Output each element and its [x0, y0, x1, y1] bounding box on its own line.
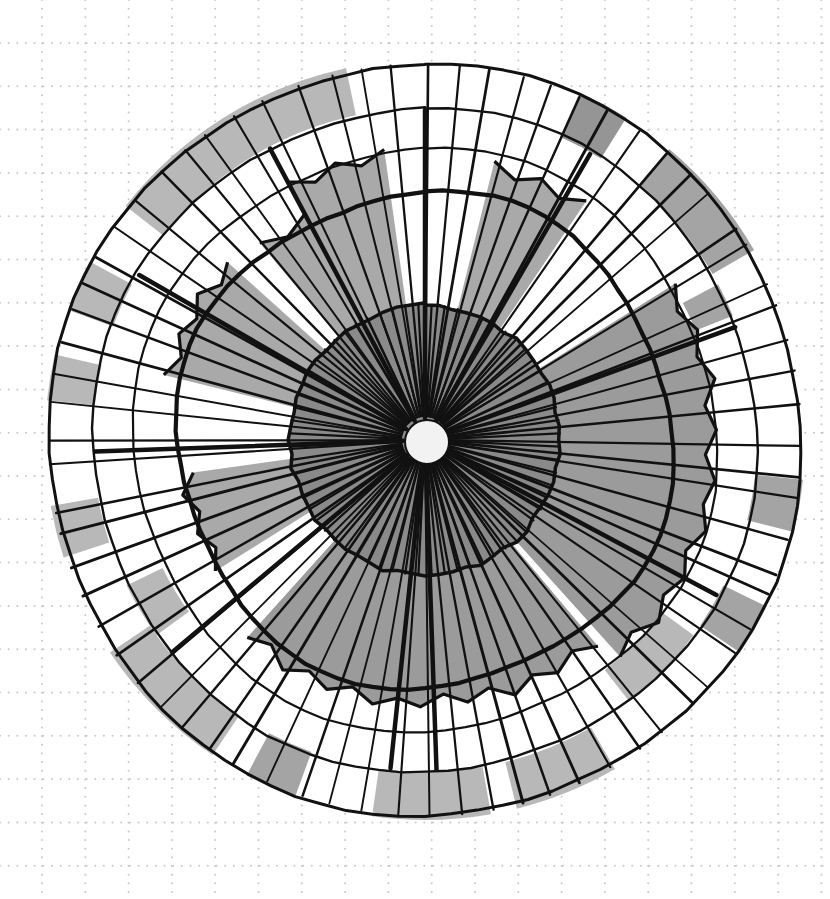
- center-hub: [405, 420, 449, 464]
- diagram-canvas: [0, 0, 830, 899]
